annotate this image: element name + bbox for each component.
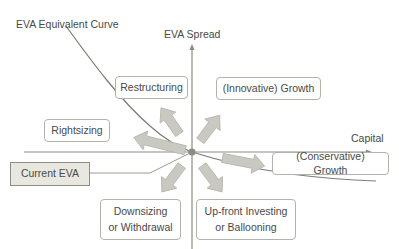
x-axis-label: Capital (351, 132, 384, 144)
origin-point-marker (188, 148, 195, 155)
box-rightsizing[interactable]: Rightsizing (44, 119, 110, 142)
box-upfront-investing[interactable]: Up-front Investing or Ballooning (196, 199, 296, 240)
arrow-up-left-icon (153, 102, 187, 139)
radiating-arrows-group (131, 102, 266, 197)
box-conservative-growth[interactable]: (Conservative) Growth (272, 152, 389, 175)
arrow-down-right-icon (195, 160, 230, 198)
box-downsizing[interactable]: Downsizing or Withdrawal (100, 199, 181, 240)
eva-strategy-diagram: EVA Equivalent Curve EVA Spread Capital … (0, 0, 399, 249)
box-current-eva[interactable]: Current EVA (10, 162, 90, 186)
box-innovative-growth[interactable]: (Innovative) Growth (216, 77, 321, 100)
curve-label: EVA Equivalent Curve (16, 18, 119, 30)
y-axis-arrowhead (189, 44, 194, 50)
y-axis-label: EVA Spread (164, 28, 220, 40)
arrow-up-right-icon (193, 109, 228, 146)
arrow-down-left-icon (154, 160, 189, 198)
box-restructuring[interactable]: Restructuring (115, 76, 188, 99)
